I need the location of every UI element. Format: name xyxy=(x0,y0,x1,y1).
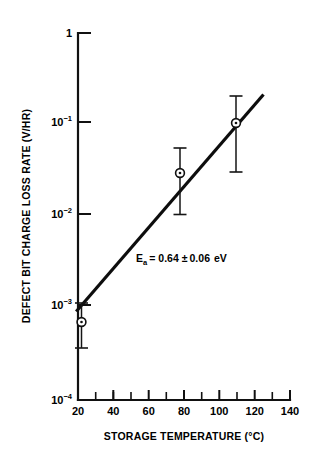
activation-energy-annotation: Ea=0.64±0.06eV xyxy=(136,252,227,267)
y-tick-label-1e-3-exp: −3 xyxy=(63,297,72,306)
y-tick-label-1e-4-base: 10 xyxy=(51,394,63,406)
activation-energy-subscript: a xyxy=(143,258,148,267)
x-axis-title: STORAGE TEMPERATURE (°C) xyxy=(104,430,264,442)
activation-energy-uncertainty: 0.06 xyxy=(190,252,211,264)
x-tick-label-80: 80 xyxy=(178,405,190,417)
data-point-1-marker-center xyxy=(80,321,83,324)
activation-energy-value: 0.64 xyxy=(158,252,179,264)
activation-energy-symbol: E xyxy=(136,252,143,264)
y-tick-label-1e0: 1 xyxy=(66,27,72,39)
data-point-2 xyxy=(174,148,187,215)
y-tick-label-1e-2-exp: −2 xyxy=(63,206,72,215)
data-point-3-marker-center xyxy=(235,122,238,125)
y-tick-label-1e-4-exp: −4 xyxy=(63,392,72,401)
y-axis-ticks xyxy=(78,33,91,400)
activation-energy-unit: eV xyxy=(214,252,227,264)
y-axis-tick-labels: 1 10−1 10−2 10−3 10−4 xyxy=(51,27,73,406)
axes-group xyxy=(78,33,290,400)
y-tick-label-1e-1-base: 10 xyxy=(51,116,63,128)
x-tick-label-120: 120 xyxy=(246,405,264,417)
chart-canvas: 1 10−1 10−2 10−3 10−4 xyxy=(0,0,318,463)
y-axis-title: DEFECT BIT CHARGE LOSS RATE (V/HR) xyxy=(20,109,32,323)
x-tick-label-100: 100 xyxy=(210,405,228,417)
x-axis-ticks xyxy=(78,390,290,400)
y-tick-label-1e-1-group: 10−1 xyxy=(51,114,72,128)
activation-energy-relation: = xyxy=(149,252,155,264)
figure-root: 1 10−1 10−2 10−3 10−4 xyxy=(0,0,318,463)
x-tick-label-60: 60 xyxy=(143,405,155,417)
y-tick-label-1e-2-group: 10−2 xyxy=(51,206,72,220)
data-point-2-marker-center xyxy=(179,172,182,175)
x-tick-label-40: 40 xyxy=(107,405,119,417)
x-axis-tick-labels: 20 40 60 80 100 120 140 xyxy=(72,405,299,417)
y-tick-label-1e-3-group: 10−3 xyxy=(51,297,72,311)
y-tick-label-1e-3-base: 10 xyxy=(51,299,63,311)
y-tick-label-1e-2-base: 10 xyxy=(51,208,63,220)
x-tick-label-140: 140 xyxy=(281,405,299,417)
activation-energy-plusminus-sign: ± xyxy=(182,252,188,264)
y-tick-label-1e-4-group: 10−4 xyxy=(51,392,73,406)
y-tick-label-1e-1-exp: −1 xyxy=(63,114,72,123)
x-tick-label-20: 20 xyxy=(72,405,84,417)
